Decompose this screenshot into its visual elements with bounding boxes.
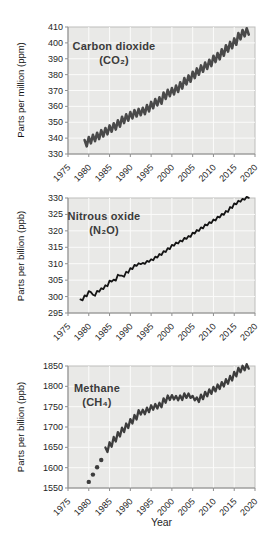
x-tick-label: 2010 xyxy=(197,162,218,183)
y-tick-label: 315 xyxy=(48,242,63,252)
y-tick-label: 410 xyxy=(48,22,63,32)
y-axis-label: Parts per billion (ppb) xyxy=(15,211,26,301)
y-tick-label: 310 xyxy=(48,259,63,269)
x-tick-label: 1990 xyxy=(114,496,135,517)
x-tick-label: 2020 xyxy=(238,496,259,517)
y-tick-label: 370 xyxy=(48,86,63,96)
x-tick-label: 2010 xyxy=(197,496,218,517)
co2-chart: Carbon dioxide (CO₂) Parts per million (… xyxy=(0,0,276,190)
chart-formula: (CO₂) xyxy=(59,54,169,68)
x-tick-label: 2000 xyxy=(155,496,176,517)
x-tick-label: 1995 xyxy=(134,496,155,517)
co2-plot: 3303403503603703803904004101975198019851… xyxy=(0,0,276,190)
data-dot xyxy=(95,465,99,469)
x-tick-label: 1980 xyxy=(72,496,93,517)
chart-title: Carbon dioxide xyxy=(59,40,169,54)
chart-formula: (N₂O) xyxy=(49,224,159,238)
y-tick-label: 1600 xyxy=(43,463,63,473)
y-tick-label: 300 xyxy=(48,292,63,302)
x-tick-label: 2015 xyxy=(217,321,238,342)
greenhouse-gas-trends-figure: Carbon dioxide (CO₂) Parts per million (… xyxy=(0,0,276,545)
x-tick-label: 2005 xyxy=(176,496,197,517)
y-tick-label: 360 xyxy=(48,101,63,111)
x-tick-label: 1995 xyxy=(134,162,155,183)
x-tick-label: 2005 xyxy=(176,162,197,183)
x-tick-label: 2000 xyxy=(155,321,176,342)
x-tick-label: 1995 xyxy=(134,321,155,342)
chart-title: Nitrous oxide xyxy=(49,210,159,224)
data-dot xyxy=(91,472,95,476)
data-dot xyxy=(99,458,103,462)
y-tick-label: 1550 xyxy=(43,483,63,493)
x-tick-label: 1985 xyxy=(93,496,114,517)
x-tick-label: 1980 xyxy=(72,321,93,342)
y-tick-label: 340 xyxy=(48,133,63,143)
x-tick-label: 2015 xyxy=(217,496,238,517)
y-tick-label: 330 xyxy=(48,193,63,203)
data-dot xyxy=(87,480,91,484)
y-axis-label: Parts per million (ppm) xyxy=(15,42,26,138)
y-tick-label: 330 xyxy=(48,149,63,159)
y-tick-label: 305 xyxy=(48,275,63,285)
x-axis-label: Year xyxy=(151,516,173,528)
y-tick-label: 1650 xyxy=(43,442,63,452)
x-tick-label: 1975 xyxy=(51,496,72,517)
x-tick-label: 2020 xyxy=(238,321,259,342)
x-tick-label: 2000 xyxy=(155,162,176,183)
y-tick-label: 350 xyxy=(48,117,63,127)
x-tick-label: 1990 xyxy=(114,321,135,342)
x-tick-label: 1980 xyxy=(72,162,93,183)
x-tick-label: 2005 xyxy=(176,321,197,342)
chart-title: Methane xyxy=(42,382,152,396)
chart-formula: (CH₄) xyxy=(42,396,152,410)
x-tick-label: 1985 xyxy=(93,321,114,342)
x-tick-label: 1985 xyxy=(93,162,114,183)
ch4-chart-title-block: Methane (CH₄) xyxy=(42,382,152,409)
n2o-chart-title-block: Nitrous oxide (N₂O) xyxy=(49,210,159,237)
n2o-chart: Nitrous oxide (N₂O) Parts per billion (p… xyxy=(0,190,276,360)
x-tick-label: 1975 xyxy=(51,162,72,183)
x-tick-label: 2020 xyxy=(238,162,259,183)
y-tick-label: 1700 xyxy=(43,422,63,432)
x-tick-label: 2015 xyxy=(217,162,238,183)
y-tick-label: 1850 xyxy=(43,361,63,371)
x-tick-label: 1990 xyxy=(114,162,135,183)
x-tick-label: 2010 xyxy=(197,321,218,342)
y-axis-label: Parts per billion (ppb) xyxy=(15,382,26,472)
ch4-chart: Methane (CH₄) Parts per billion (ppb) 15… xyxy=(0,360,276,545)
y-tick-label: 380 xyxy=(48,70,63,80)
y-tick-label: 295 xyxy=(48,308,63,318)
co2-chart-title-block: Carbon dioxide (CO₂) xyxy=(59,40,169,67)
x-tick-label: 1975 xyxy=(51,321,72,342)
